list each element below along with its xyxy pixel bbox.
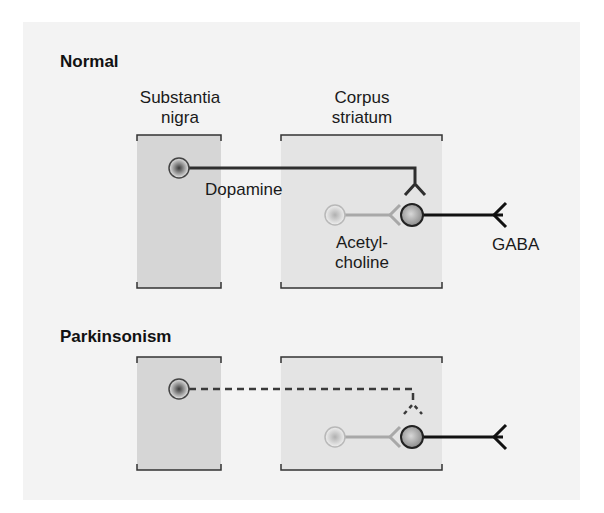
gaba-label: GABA (492, 235, 539, 255)
dopamine-neuron-icon (169, 158, 189, 178)
label-line: striatum (302, 108, 422, 128)
substantia-nigra-label: Substantia nigra (120, 88, 240, 128)
acetylcholine-neuron-icon (325, 427, 345, 447)
gaba-neuron-icon (401, 426, 423, 448)
label-line: Substantia (120, 88, 240, 108)
gaba-neuron-icon (401, 204, 423, 226)
label-line: choline (302, 253, 422, 273)
corpus-striatum-region (281, 357, 442, 470)
dopamine-label: Dopamine (205, 180, 283, 200)
parkinsonism-heading: Parkinsonism (60, 327, 172, 347)
corpus-striatum-label: Corpus striatum (302, 88, 422, 128)
parkinsonism-section (137, 357, 506, 470)
acetylcholine-label: Acetyl- choline (302, 233, 422, 273)
label-line: nigra (120, 108, 240, 128)
dopamine-neuron-icon (169, 379, 189, 399)
label-line: Acetyl- (302, 233, 422, 253)
normal-heading: Normal (60, 52, 119, 72)
label-line: Corpus (302, 88, 422, 108)
substantia-nigra-region (137, 357, 221, 470)
acetylcholine-neuron-icon (325, 205, 345, 225)
